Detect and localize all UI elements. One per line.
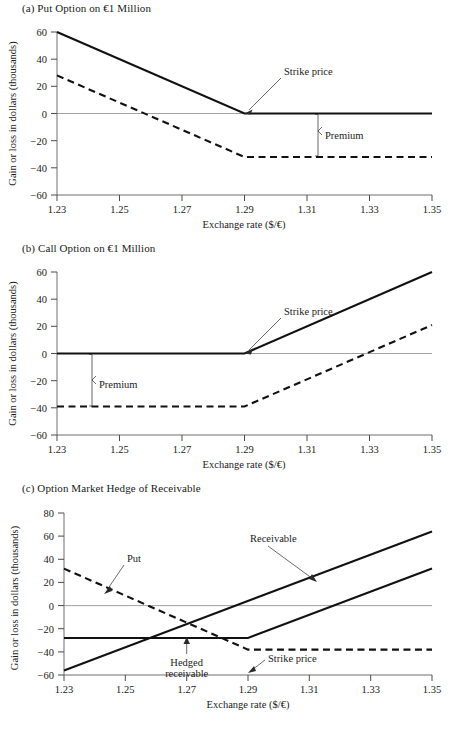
x-ticks-c [64,675,432,681]
x-tick-label: 1.23 [48,444,66,455]
y-tick-label: −40 [38,647,54,658]
x-tick-label: 1.33 [362,684,380,695]
hedged-receivable-label-line1: Hedged [170,657,203,668]
y-tick-label: 40 [44,554,55,565]
y-tick-label: 60 [44,531,55,542]
y-tick-label: −20 [38,624,54,635]
x-tick-label: 1.25 [116,684,134,695]
x-tick-label: 1.35 [423,684,441,695]
panel-a-plot: 60 40 20 0 −20 −40 −60 1.23 1.25 1.27 1.… [0,0,462,240]
strike-price-label-a: Strike price [284,66,333,77]
strike-price-label-b: Strike price [284,306,333,317]
hedged-receivable-label-line2: receivable [165,668,208,679]
x-tick-label: 1.33 [360,444,378,455]
y-tick-label: 40 [37,54,48,65]
x-tick-label: 1.29 [235,204,253,215]
receivable-leader [268,546,313,579]
y-tick-label: 60 [37,27,48,38]
x-tick-label: 1.33 [360,204,378,215]
strike-price-leader-a [249,78,281,110]
y-tick-label: 40 [37,294,48,305]
premium-label-a: Premium [325,130,364,141]
premium-brace-a [315,115,318,157]
y-ticks-c [58,513,64,675]
x-tick-label: 1.29 [235,444,253,455]
premium-brace-b [89,355,92,407]
premium-label-b: Premium [99,379,138,390]
x-tick-label: 1.27 [173,444,191,455]
y-tick-label: 80 [44,508,55,519]
premium-brace-tip-b [92,376,96,384]
series-put-payoff [57,32,432,114]
y-tick-label: −40 [31,163,47,174]
y-ticks-a [51,32,57,195]
x-tick-label: 1.31 [298,204,316,215]
y-tick-label: 0 [49,601,54,612]
y-tick-label: 60 [37,267,48,278]
series-put-profit [57,75,432,157]
x-tick-label: 1.35 [423,444,441,455]
y-tick-label: −20 [31,376,47,387]
panel-c-plot: 80 60 40 20 0 −20 −40 −60 1.23 1.25 1.27… [0,480,462,732]
strike-price-label-c: Strike price [268,653,317,664]
series-call-profit [57,325,432,407]
put-label: Put [127,553,141,564]
x-tick-label: 1.29 [239,684,257,695]
x-ticks-a [57,195,432,201]
x-tick-label: 1.27 [173,204,191,215]
x-tick-label: 1.35 [423,204,441,215]
y-tick-label: −40 [31,403,47,414]
x-tick-label: 1.23 [55,684,73,695]
x-ticks-b [57,435,432,441]
y-tick-label: 20 [37,321,48,332]
x-tick-label: 1.31 [298,444,316,455]
x-tick-label: 1.27 [178,684,196,695]
y-axis-title: Gain or loss in dollars (thousands) [7,41,19,186]
y-tick-label: −60 [38,670,54,681]
panel-option-market-hedge: (c) Option Market Hedge of Receivable 80… [0,480,462,732]
y-axis-title: Gain or loss in dollars (thousands) [9,525,21,670]
y-axis-title: Gain or loss in dollars (thousands) [7,281,19,426]
y-tick-label: −60 [31,430,47,441]
series-hedged-receivable [64,569,432,638]
y-ticks-b [51,272,57,435]
receivable-label: Receivable [250,533,297,544]
x-tick-label: 1.31 [300,684,318,695]
y-tick-label: 0 [42,109,47,120]
x-axis-title: Exchange rate ($/€) [203,459,286,471]
panel-b-plot: 60 40 20 0 −20 −40 −60 1.23 1.25 1.27 1.… [0,240,462,480]
y-tick-label: −60 [31,190,47,201]
y-tick-label: 20 [44,577,55,588]
x-axis-title: Exchange rate ($/€) [203,219,286,231]
y-tick-label: 0 [42,349,47,360]
panel-call-option: (b) Call Option on €1 Million 60 40 20 0… [0,240,462,480]
x-tick-label: 1.23 [48,204,66,215]
panel-put-option: (a) Put Option on €1 Million 60 40 20 0 [0,0,462,240]
strike-price-arrowhead-c [248,666,256,673]
y-tick-label: −20 [31,136,47,147]
y-tick-label: 20 [37,81,48,92]
x-axis-title: Exchange rate ($/€) [207,699,290,711]
x-tick-label: 1.25 [110,444,128,455]
put-leader [107,565,124,590]
series-call-payoff [57,272,432,354]
x-tick-label: 1.25 [110,204,128,215]
premium-brace-tip-a [318,127,322,135]
figure-page: (a) Put Option on €1 Million 60 40 20 0 [0,0,462,732]
